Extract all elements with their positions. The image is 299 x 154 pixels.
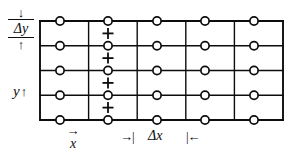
y-axis-label: y↑ bbox=[13, 84, 27, 99]
delta-y-label: Δy bbox=[6, 21, 36, 36]
plus-marker bbox=[103, 103, 112, 112]
node-circle bbox=[201, 42, 209, 50]
delta-y-annotation: ↓ Δy ↑ bbox=[6, 8, 36, 51]
node-circle bbox=[56, 116, 64, 124]
node-circle bbox=[201, 91, 209, 99]
node-circle bbox=[250, 17, 258, 25]
node-circle bbox=[201, 116, 209, 124]
delta-y-arrow-up-icon: ↑ bbox=[6, 39, 36, 51]
node-circle bbox=[56, 91, 64, 99]
node-circle bbox=[104, 42, 112, 50]
node-circle bbox=[250, 42, 258, 50]
staggered-grid-figure: ↓ Δy ↑ y↑ → x →| Δx |← bbox=[0, 0, 299, 154]
node-circle bbox=[56, 17, 64, 25]
node-circle bbox=[56, 42, 64, 50]
delta-y-arrow-down-icon: ↓ bbox=[6, 8, 36, 18]
node-circle bbox=[153, 91, 161, 99]
node-circle bbox=[250, 116, 258, 124]
y-axis-symbol: y bbox=[13, 83, 20, 99]
node-circle bbox=[104, 66, 112, 74]
node-circle bbox=[153, 42, 161, 50]
node-circle bbox=[153, 17, 161, 25]
node-circle bbox=[153, 116, 161, 124]
node-circle bbox=[201, 17, 209, 25]
node-circle bbox=[201, 66, 209, 74]
delta-x-label: Δx bbox=[148, 129, 162, 143]
node-circle bbox=[250, 66, 258, 74]
x-axis-symbol: x bbox=[60, 137, 86, 151]
node-circle bbox=[153, 66, 161, 74]
delta-x-tick-right-icon: |← bbox=[186, 130, 200, 143]
x-axis-label: → x bbox=[60, 126, 86, 151]
plus-marker bbox=[103, 54, 112, 63]
delta-x-tick-left-icon: →| bbox=[120, 130, 134, 143]
plus-marker bbox=[103, 29, 112, 38]
node-circle bbox=[104, 17, 112, 25]
node-circle bbox=[56, 66, 64, 74]
node-circle bbox=[104, 91, 112, 99]
node-circle bbox=[250, 91, 258, 99]
node-circle bbox=[104, 116, 112, 124]
y-axis-arrow-up-icon: ↑ bbox=[21, 84, 28, 99]
plus-marker bbox=[103, 78, 112, 87]
